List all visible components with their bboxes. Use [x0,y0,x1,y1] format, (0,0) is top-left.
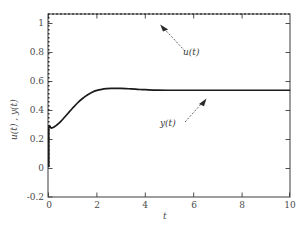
x-tick-label-2: 2 [85,200,109,210]
x-tick-label-8: 8 [230,200,254,210]
annotation-label-u: u(t) [183,47,199,57]
y-tick-label-1: 1 [10,18,44,28]
x-axis-title: t [163,211,167,221]
x-tick-label-6: 6 [182,200,206,210]
x-tick-label-10: 10 [278,200,302,210]
y-tick-label-0.8: 0.8 [10,47,44,57]
y-tick-label-0: 0 [10,163,44,173]
y-axis-title: u(t) , y(t) [9,99,19,140]
x-tick-label-0: 0 [37,200,61,210]
x-tick-label-4: 4 [133,200,157,210]
plot-frame [48,14,290,197]
annotation-label-y: y(t) [160,118,176,128]
y-tick-label-0.6: 0.6 [10,76,44,86]
figure-canvas: 1 0.8 0.6 0.4 0.2 0 -0.2 0 2 4 6 8 10 t … [0,0,306,236]
